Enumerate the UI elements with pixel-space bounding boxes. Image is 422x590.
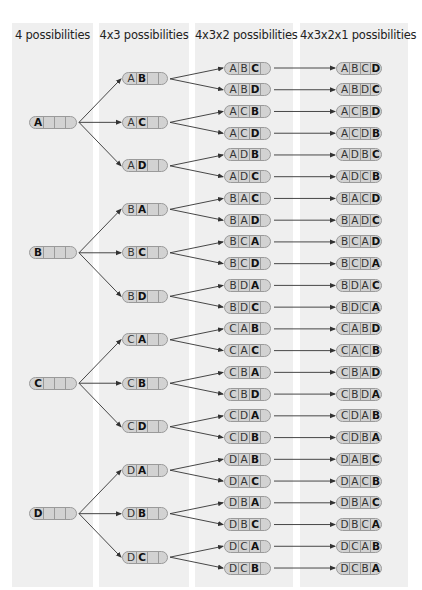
letter-slot: B: [225, 280, 239, 291]
letter-slot: A: [350, 454, 360, 465]
letter-slot: [148, 291, 159, 302]
permutation-node: BAD: [224, 214, 271, 227]
letter-slot: A: [337, 171, 350, 182]
letter-slot: A: [350, 193, 360, 204]
letter-slot: A: [225, 171, 239, 182]
letter-slot: C: [361, 519, 371, 530]
permutation-node: DA: [122, 464, 168, 477]
letter-slot: [55, 117, 66, 128]
letter-slot: A: [239, 323, 250, 334]
letter-slot: C: [371, 215, 381, 226]
permutation-node: DAC: [224, 475, 271, 488]
letter-slot: A: [361, 497, 371, 508]
letter-slot: C: [361, 302, 371, 313]
permutation-node: DB: [122, 507, 168, 520]
letter-slot: [261, 563, 270, 574]
permutation-node: DAB: [224, 453, 271, 466]
letter-slot: [148, 508, 159, 519]
letter-slot: D: [337, 541, 350, 552]
permutation-node: BADC: [336, 214, 382, 227]
permutation-node: DACB: [336, 475, 382, 488]
letter-slot: C: [123, 421, 137, 432]
letter-slot: D: [239, 280, 250, 291]
letter-slot: D: [350, 149, 360, 160]
letter-slot: D: [123, 552, 137, 563]
permutation-node: BD: [122, 290, 168, 303]
letter-slot: A: [225, 63, 239, 74]
letter-slot: A: [239, 345, 250, 356]
letter-slot: B: [361, 149, 371, 160]
letter-slot: B: [239, 63, 250, 74]
letter-slot: [148, 552, 159, 563]
letter-slot: [148, 160, 159, 171]
permutation-node: CDAB: [336, 409, 382, 422]
letter-slot: B: [361, 106, 371, 117]
letter-slot: [261, 63, 270, 74]
permutation-node: ACD: [224, 127, 271, 140]
permutation-node: ADB: [224, 148, 271, 161]
letter-slot: [159, 378, 167, 389]
letter-slot: [261, 280, 270, 291]
letter-slot: C: [239, 128, 250, 139]
letter-slot: C: [225, 323, 239, 334]
letter-slot: B: [123, 204, 137, 215]
permutation-node: DBAC: [336, 496, 382, 509]
letter-slot: [148, 465, 159, 476]
letter-slot: C: [350, 541, 360, 552]
letter-slot: D: [350, 280, 360, 291]
letter-slot: A: [137, 334, 148, 345]
letter-slot: [261, 193, 270, 204]
letter-slot: B: [371, 345, 381, 356]
letter-slot: A: [239, 193, 250, 204]
letter-slot: C: [337, 323, 350, 334]
permutation-node: CBA: [224, 366, 271, 379]
letter-slot: C: [250, 519, 261, 530]
letter-slot: D: [250, 389, 261, 400]
permutation-node: DCBA: [336, 562, 382, 575]
letter-slot: C: [371, 497, 381, 508]
permutation-node: DBA: [224, 496, 271, 509]
letter-slot: A: [250, 541, 261, 552]
letter-slot: A: [239, 476, 250, 487]
letter-slot: C: [137, 117, 148, 128]
letter-slot: D: [239, 410, 250, 421]
letter-slot: [66, 508, 76, 519]
permutation-node: BCDA: [336, 257, 382, 270]
letter-slot: B: [350, 84, 360, 95]
letter-slot: C: [337, 345, 350, 356]
permutation-node: ADBC: [336, 148, 382, 161]
letter-slot: C: [350, 128, 360, 139]
letter-slot: D: [239, 432, 250, 443]
letter-slot: B: [361, 323, 371, 334]
letter-slot: D: [250, 215, 261, 226]
letter-slot: B: [137, 378, 148, 389]
letter-slot: A: [250, 410, 261, 421]
letter-slot: [261, 149, 270, 160]
letter-slot: C: [250, 63, 261, 74]
letter-slot: D: [361, 258, 371, 269]
letter-slot: A: [137, 465, 148, 476]
letter-slot: A: [250, 280, 261, 291]
letter-slot: [159, 73, 167, 84]
letter-slot: A: [361, 280, 371, 291]
letter-slot: B: [123, 291, 137, 302]
letter-slot: C: [239, 236, 250, 247]
permutation-node: A: [29, 116, 77, 129]
letter-slot: C: [250, 302, 261, 313]
letter-slot: C: [350, 236, 360, 247]
letter-slot: C: [239, 563, 250, 574]
letter-slot: D: [361, 215, 371, 226]
permutation-node: BCA: [224, 235, 271, 248]
letter-slot: A: [361, 410, 371, 421]
permutation-node: C: [29, 377, 77, 390]
letter-slot: D: [225, 454, 239, 465]
letter-slot: [261, 454, 270, 465]
letter-slot: A: [137, 204, 148, 215]
permutation-node: CDB: [224, 431, 271, 444]
permutation-node: ABC: [224, 62, 271, 75]
permutation-node: AC: [122, 116, 168, 129]
letter-slot: B: [337, 215, 350, 226]
letter-slot: [159, 421, 167, 432]
letter-slot: D: [137, 421, 148, 432]
letter-slot: A: [123, 160, 137, 171]
